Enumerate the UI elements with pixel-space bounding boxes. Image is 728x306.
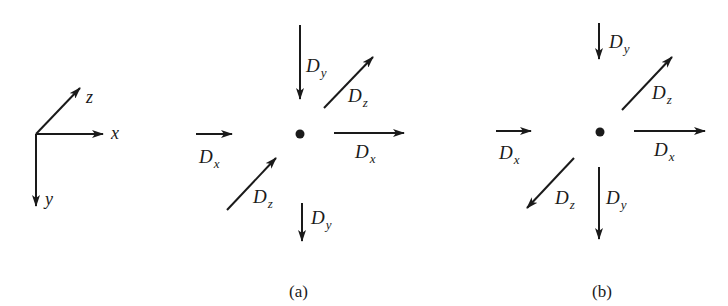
- subscript: z: [570, 197, 575, 212]
- subscript: y: [621, 197, 627, 212]
- a-dy-top-label: Dy: [306, 56, 327, 79]
- symbol: D: [555, 187, 569, 208]
- b-dz-top-label: Dz: [652, 83, 672, 106]
- symbol: D: [199, 146, 213, 167]
- b-center-point-icon: [596, 128, 605, 137]
- symbol: D: [348, 85, 362, 106]
- b-dy-top-label: Dy: [609, 32, 630, 55]
- a-dx-right-label: Dx: [355, 142, 376, 165]
- subscript: y: [321, 65, 327, 80]
- symbol: D: [311, 207, 325, 228]
- subscript: x: [214, 156, 220, 171]
- subscript: y: [326, 217, 332, 232]
- a-dz-top-label: Dz: [348, 86, 368, 109]
- a-dx-left-label: Dx: [199, 147, 220, 170]
- subscript: y: [624, 41, 630, 56]
- subscript: x: [669, 149, 675, 164]
- symbol: D: [253, 186, 267, 207]
- z-axis-label: z: [86, 88, 93, 106]
- b-dx-left-label: Dx: [499, 143, 520, 166]
- diagram-canvas: z x y Dy Dz Dx Dx Dz Dy Dy Dz Dx Dx Dz D…: [0, 0, 728, 306]
- z-axis-arrow-icon: [36, 88, 80, 134]
- subscript: x: [370, 151, 376, 166]
- b-dy-bottom-label: Dy: [606, 188, 627, 211]
- symbol: D: [606, 187, 620, 208]
- a-dy-bottom-label: Dy: [311, 208, 332, 231]
- b-dx-right-label: Dx: [654, 140, 675, 163]
- subscript: z: [268, 196, 273, 211]
- a-dz-bottom-label: Dz: [253, 187, 273, 210]
- b-dz-bottom-label: Dz: [555, 188, 575, 211]
- symbol: D: [306, 55, 320, 76]
- symbol: D: [609, 31, 623, 52]
- subscript: z: [667, 92, 672, 107]
- symbol: D: [652, 82, 666, 103]
- symbol: D: [499, 142, 513, 163]
- a-center-point-icon: [296, 130, 305, 139]
- y-axis-label: y: [45, 190, 53, 208]
- x-axis-label: x: [111, 124, 119, 142]
- subscript: x: [514, 152, 520, 167]
- subscript: z: [363, 95, 368, 110]
- panel-a-caption: (a): [289, 283, 308, 300]
- symbol: D: [654, 139, 668, 160]
- symbol: D: [355, 141, 369, 162]
- panel-b-caption: (b): [592, 283, 612, 300]
